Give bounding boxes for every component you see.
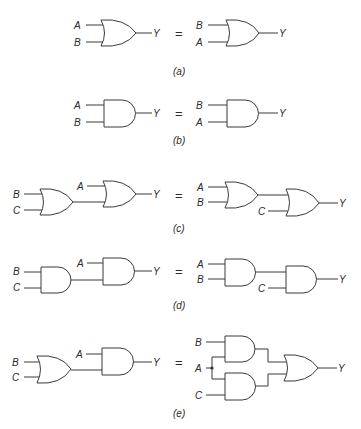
output-label-y: Y [279,108,287,119]
output-label-y: Y [153,108,161,119]
caption-b: (b) [173,135,185,146]
input-label-b: B [195,337,202,348]
and-gate [225,373,256,400]
caption-e: (e) [173,408,185,419]
output-label-y: Y [339,274,347,285]
logic-gate-diagram: A B Y = B A Y (a) A B Y = B A Y (b) [0,0,361,429]
equals-sign: = [175,355,183,370]
caption-c: (c) [173,223,185,234]
input-label-a: A [76,181,84,192]
panel-a: A B Y = B A Y (a) [73,20,287,77]
output-label-y: Y [153,189,161,200]
input-label-b: B [13,266,20,277]
input-label-a: A [195,37,203,48]
and-gate [225,259,256,286]
and-gate [41,267,71,293]
or-gate [37,356,71,383]
input-label-a: A [75,349,83,360]
input-label-b: B [196,20,203,31]
output-label-y: Y [338,363,346,374]
input-label-a: A [195,117,203,128]
caption-d: (d) [173,300,185,311]
output-label-y: Y [339,198,347,209]
input-label-c: C [12,372,20,383]
input-label-c: C [195,390,203,401]
and-gate [103,258,135,285]
input-label-b: B [12,357,19,368]
input-label-a: A [196,182,204,193]
input-label-b: B [196,100,203,111]
and-gate [225,336,255,362]
output-label-y: Y [153,266,161,277]
input-label-a: A [196,259,204,270]
and-gate [227,100,259,127]
and-gate [104,100,136,127]
equals-sign: = [175,26,183,41]
input-label-c: C [258,283,266,294]
input-label-b: B [74,37,81,48]
input-label-c: C [258,206,266,217]
or-gate [225,182,258,208]
or-gate [103,181,136,207]
input-label-a: A [73,100,81,111]
output-label-y: Y [153,28,161,39]
and-gate [102,348,134,375]
panel-e: B C A Y = B A C Y (e) [12,336,346,419]
or-gate [226,20,259,46]
input-label-b: B [197,274,204,285]
input-label-b: B [74,117,81,128]
or-gate [284,355,318,381]
or-gate [40,189,73,215]
input-label-c: C [13,205,21,216]
equals-sign: = [175,188,183,203]
equals-sign: = [175,106,183,121]
panel-c: B C A Y = A B C Y (c) [13,181,347,234]
panel-b: A B Y = B A Y (b) [73,100,287,146]
input-label-a: A [73,20,81,31]
input-label-b: B [13,189,20,200]
output-label-y: Y [153,357,161,368]
caption-a: (a) [173,66,185,77]
and-gate [286,266,317,293]
output-label-y: Y [279,28,287,39]
or-gate [101,20,136,46]
input-label-a: A [194,363,202,374]
input-label-a: A [76,258,84,269]
input-label-b: B [197,197,204,208]
or-gate [286,189,319,216]
equals-sign: = [175,264,183,279]
panel-d: B C A Y = A B C Y (d) [13,258,347,311]
input-label-c: C [13,282,21,293]
